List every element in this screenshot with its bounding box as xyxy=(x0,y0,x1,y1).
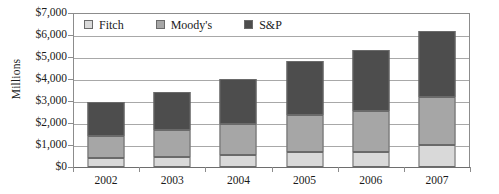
bar-segment-sp[interactable] xyxy=(418,31,455,97)
x-tick-label: 2007 xyxy=(404,173,470,187)
bar-segment-sp[interactable] xyxy=(154,92,191,130)
bar-group[interactable] xyxy=(205,13,271,167)
x-tick-mark xyxy=(73,167,74,172)
x-tick-label: 2006 xyxy=(338,173,404,187)
bar-segment-fitch[interactable] xyxy=(352,152,389,167)
legend-swatch-icon xyxy=(244,20,253,29)
legend-label: S&P xyxy=(259,19,282,31)
bar-group[interactable] xyxy=(73,13,139,167)
bar-group[interactable] xyxy=(272,13,338,167)
y-tick-label: $4,000 xyxy=(35,73,67,85)
bar-group[interactable] xyxy=(404,13,470,167)
x-tick-mark xyxy=(139,167,140,172)
y-tick-label: $1,000 xyxy=(35,139,67,151)
bar-segment-fitch[interactable] xyxy=(220,155,257,167)
x-tick-mark xyxy=(205,167,206,172)
y-tick-label: $7,000 xyxy=(35,7,67,19)
y-tick-label: $6,000 xyxy=(35,29,67,41)
stacked-bar[interactable] xyxy=(220,13,257,167)
bar-segment-sp[interactable] xyxy=(286,61,323,115)
x-tick-label: 2004 xyxy=(205,173,271,187)
x-tick-mark xyxy=(404,167,405,172)
bar-series-container xyxy=(73,13,470,167)
bar-segment-moodys[interactable] xyxy=(88,136,125,158)
bar-segment-moodys[interactable] xyxy=(154,130,191,158)
legend-item[interactable]: Moody's xyxy=(156,19,213,31)
x-axis-tick-labels: 200220032004200520062007 xyxy=(73,173,470,191)
x-tick-mark xyxy=(272,167,273,172)
chart-legend: FitchMoody'sS&P xyxy=(84,17,314,32)
bar-segment-sp[interactable] xyxy=(352,50,389,111)
bar-group[interactable] xyxy=(139,13,205,167)
bar-segment-sp[interactable] xyxy=(88,102,125,136)
y-tick-label: $3,000 xyxy=(35,95,67,107)
x-tick-label: 2002 xyxy=(73,173,139,187)
bar-segment-fitch[interactable] xyxy=(286,152,323,167)
legend-swatch-icon xyxy=(156,20,165,29)
legend-label: Fitch xyxy=(99,19,124,31)
y-tick-label: $2,000 xyxy=(35,117,67,129)
stacked-bar[interactable] xyxy=(154,13,191,167)
x-tick-label: 2003 xyxy=(139,173,205,187)
bar-segment-sp[interactable] xyxy=(220,79,257,124)
x-axis-ticks xyxy=(73,167,470,172)
bar-segment-fitch[interactable] xyxy=(418,145,455,167)
y-tick-label: $5,000 xyxy=(35,51,67,63)
bar-segment-fitch[interactable] xyxy=(88,158,125,167)
bar-segment-moodys[interactable] xyxy=(220,124,257,155)
stacked-bar[interactable] xyxy=(286,13,323,167)
bar-group[interactable] xyxy=(338,13,404,167)
x-tick-mark xyxy=(470,167,471,172)
y-axis-tick-labels: $0$1,000$2,000$3,000$4,000$5,000$6,000$7… xyxy=(0,0,70,194)
bar-segment-fitch[interactable] xyxy=(154,157,191,167)
stacked-bar[interactable] xyxy=(88,13,125,167)
legend-swatch-icon xyxy=(84,20,93,29)
legend-item[interactable]: Fitch xyxy=(84,19,124,31)
legend-label: Moody's xyxy=(171,19,213,31)
legend-item[interactable]: S&P xyxy=(244,19,282,31)
stacked-bar[interactable] xyxy=(352,13,389,167)
stacked-bar-chart: Millions $0$1,000$2,000$3,000$4,000$5,00… xyxy=(0,0,499,194)
x-tick-label: 2005 xyxy=(272,173,338,187)
y-tick-label: $0 xyxy=(56,161,68,173)
bar-segment-moodys[interactable] xyxy=(418,97,455,145)
bar-segment-moodys[interactable] xyxy=(286,115,323,151)
bar-segment-moodys[interactable] xyxy=(352,111,389,152)
x-tick-mark xyxy=(338,167,339,172)
stacked-bar[interactable] xyxy=(418,13,455,167)
